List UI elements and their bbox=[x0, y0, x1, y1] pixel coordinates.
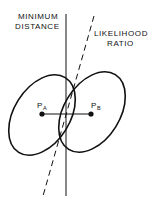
point-b-dot bbox=[88, 111, 93, 116]
likelihood-ratio-label-line2: RATIO bbox=[107, 39, 134, 48]
min-distance-label-line2: DISTANCE bbox=[15, 22, 60, 31]
likelihood-ratio-label-line1: LIKELIHOOD bbox=[94, 29, 148, 38]
point-b-label: PB bbox=[91, 101, 101, 111]
min-distance-label-line1: MINIMUM bbox=[18, 12, 58, 21]
likelihood-ratio-boundary bbox=[43, 16, 94, 196]
point-a-label: PA bbox=[37, 101, 47, 111]
decision-boundary-diagram: MINIMUM DISTANCE LIKELIHOOD RATIO PA PB bbox=[0, 0, 162, 203]
point-a-dot bbox=[39, 111, 44, 116]
